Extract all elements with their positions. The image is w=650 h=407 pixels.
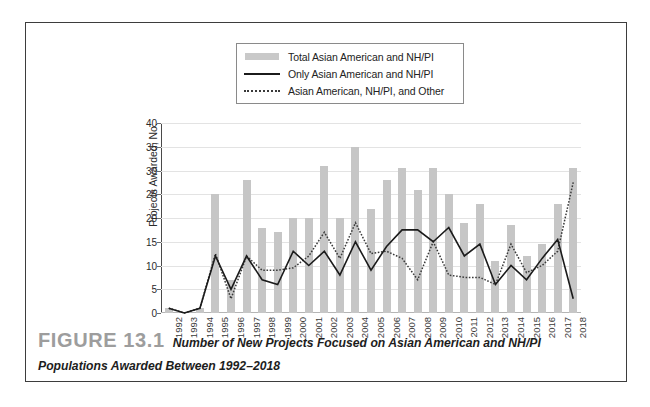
solid-line-swatch-icon bbox=[243, 68, 281, 80]
y-tick-label: 35 bbox=[135, 141, 157, 152]
legend-label-only: Only Asian American and NH/PI bbox=[288, 68, 433, 80]
solid-line-path bbox=[169, 228, 573, 314]
y-tick-mark bbox=[157, 313, 161, 314]
y-tick-label: 25 bbox=[135, 189, 157, 200]
y-tick-label: 30 bbox=[135, 165, 157, 176]
line-series bbox=[161, 123, 581, 313]
legend-item-other: Asian American, NH/PI, and Other bbox=[243, 82, 455, 99]
y-tick-label: 20 bbox=[135, 213, 157, 224]
dotted-line-swatch-icon bbox=[243, 85, 281, 97]
y-tick-label: 40 bbox=[135, 118, 157, 129]
legend-label-other: Asian American, NH/PI, and Other bbox=[288, 85, 444, 97]
figure-number: FIGURE 13.1 bbox=[38, 329, 165, 351]
y-tick-label: 5 bbox=[135, 284, 157, 295]
y-tick-label: 10 bbox=[135, 260, 157, 271]
dotted-line-path bbox=[169, 182, 573, 313]
legend-item-total: Total Asian American and NH/PI bbox=[243, 48, 455, 65]
legend-label-total: Total Asian American and NH/PI bbox=[288, 51, 434, 63]
y-tick-label: 15 bbox=[135, 236, 157, 247]
chart-plot-area: Projects Awarded, No. 0510152025303540 1… bbox=[161, 123, 581, 313]
y-tick-label: 0 bbox=[135, 308, 157, 319]
bar-swatch-icon bbox=[243, 51, 281, 63]
figure-caption: FIGURE 13.1Number of New Projects Focuse… bbox=[38, 327, 613, 376]
legend-item-only: Only Asian American and NH/PI bbox=[243, 65, 455, 82]
chart-legend: Total Asian American and NH/PI Only Asia… bbox=[236, 43, 464, 104]
